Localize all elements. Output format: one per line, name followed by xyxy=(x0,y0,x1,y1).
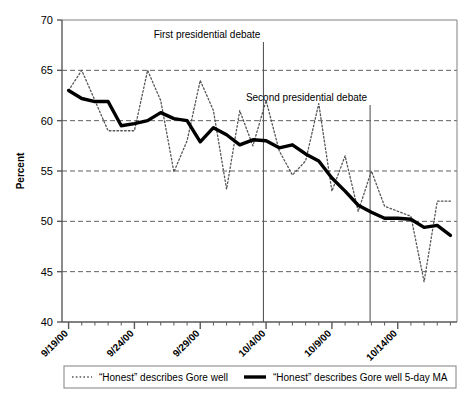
legend-label-daily: “Honest” describes Gore well xyxy=(99,372,228,383)
y-tick-label-50: 50 xyxy=(41,215,53,227)
chart-legend: “Honest” describes Gore well “Honest” de… xyxy=(64,366,456,388)
y-tick-label-65: 65 xyxy=(41,64,53,76)
y-tick-label-70: 70 xyxy=(41,14,53,26)
y-tick-label-40: 40 xyxy=(41,316,53,328)
y-tick-label-60: 60 xyxy=(41,115,53,127)
line-chart: 40455055606570 9/19/009/24/009/29/0010/4… xyxy=(0,0,472,406)
y-axis-title: Percent xyxy=(15,152,26,189)
legend-label-moving-average: “Honest” describes Gore well 5-day MA xyxy=(273,372,448,383)
annotation-label-0: First presidential debate xyxy=(154,29,261,40)
chart-background xyxy=(0,0,472,406)
chart-container: 40455055606570 9/19/009/24/009/29/0010/4… xyxy=(0,0,472,406)
annotation-label-1: Second presidential debate xyxy=(246,92,368,103)
y-tick-label-45: 45 xyxy=(41,266,53,278)
y-tick-label-55: 55 xyxy=(41,165,53,177)
